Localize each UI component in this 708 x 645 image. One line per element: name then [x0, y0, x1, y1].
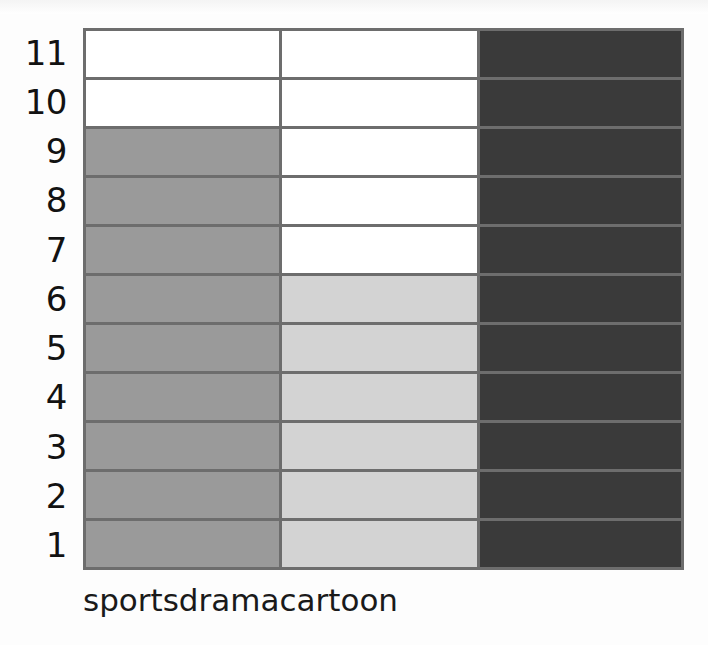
y-tick-label: 1 [8, 521, 76, 570]
y-tick-label: 7 [8, 225, 76, 274]
bar-column-drama [279, 31, 477, 567]
y-tick-label: 9 [8, 127, 76, 176]
x-tick-label-cartoon: cartoon [279, 574, 398, 626]
y-tick-label: 2 [8, 471, 76, 520]
bar-column-sports [86, 31, 279, 567]
x-tick-label-drama: drama [179, 574, 280, 626]
y-tick-label: 3 [8, 422, 76, 471]
x-axis: sports drama cartoon [83, 574, 684, 626]
y-tick-label: 5 [8, 324, 76, 373]
bar-chart-figure: 11 10 9 8 7 6 5 4 3 2 1 sports drama car… [0, 0, 708, 645]
bar-cartoon [480, 31, 681, 567]
scan-edge-artifact [0, 0, 708, 14]
bar-columns [86, 31, 681, 567]
y-tick-label: 11 [8, 28, 76, 77]
y-axis: 11 10 9 8 7 6 5 4 3 2 1 [8, 28, 76, 570]
x-tick-label-sports: sports [83, 574, 179, 626]
y-tick-label: 6 [8, 274, 76, 323]
y-tick-label: 8 [8, 176, 76, 225]
plot-area [83, 28, 684, 570]
y-tick-label: 10 [8, 77, 76, 126]
y-tick-label: 4 [8, 373, 76, 422]
bar-column-cartoon [477, 31, 681, 567]
bar-sports [86, 128, 279, 567]
bar-drama [282, 275, 477, 567]
